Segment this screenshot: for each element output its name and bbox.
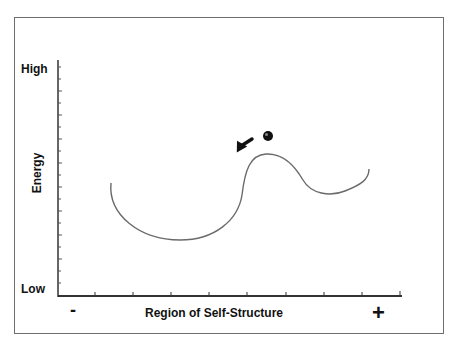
- y-axis-title: Energy: [30, 148, 44, 198]
- x-axis-plus-label: +: [372, 300, 385, 326]
- energy-diagram: [0, 0, 458, 351]
- ball-icon: [263, 131, 273, 141]
- y-axis-low-label: Low: [21, 282, 45, 296]
- y-axis-high-label: High: [21, 62, 48, 76]
- x-axis-minus-label: -: [70, 300, 76, 321]
- x-axis-title: Region of Self-Structure: [145, 306, 283, 320]
- arrow-icon: [232, 138, 252, 153]
- energy-curve: [111, 154, 369, 240]
